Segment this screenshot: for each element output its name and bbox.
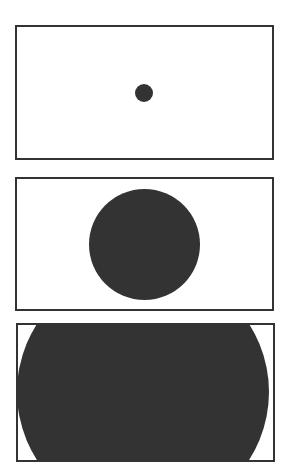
panel-small-circle-interior xyxy=(17,27,272,158)
panel-large-circle xyxy=(16,323,275,462)
panel-medium-circle xyxy=(15,177,274,311)
circle-medium xyxy=(89,189,200,300)
panel-medium-circle-interior xyxy=(17,179,272,309)
circle-small xyxy=(135,84,153,102)
panel-small-circle xyxy=(15,25,274,160)
circle-large-clipped xyxy=(18,325,269,460)
figure-canvas xyxy=(0,0,289,474)
panel-large-circle-interior xyxy=(18,325,273,460)
